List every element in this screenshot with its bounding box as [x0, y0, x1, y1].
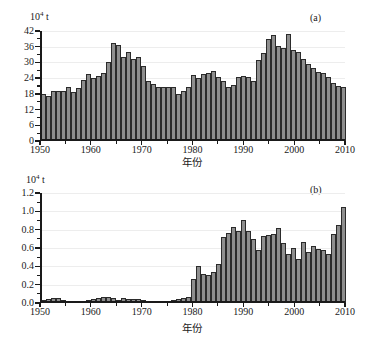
y-tick-minor — [37, 257, 40, 258]
x-axis-title-b: 年份 — [182, 323, 202, 334]
bar — [291, 248, 295, 303]
bar — [166, 87, 170, 141]
y-tick-label: 42 — [24, 26, 34, 36]
bar — [236, 77, 240, 141]
bar — [76, 88, 80, 141]
plot-area-b: 0.00.20.40.60.81.01.2 195019601970198019… — [40, 193, 345, 303]
bar — [336, 86, 340, 141]
bar — [96, 76, 100, 141]
bar — [331, 83, 335, 141]
y-tick-major — [35, 125, 40, 126]
bar — [281, 48, 285, 141]
bar — [201, 274, 205, 303]
bar — [101, 73, 105, 141]
y-tick-major — [35, 93, 40, 94]
x-tick-minor — [116, 303, 117, 306]
bar — [291, 50, 295, 141]
y-tick-major — [35, 247, 40, 248]
x-tick-label: 1950 — [30, 307, 50, 317]
bar — [136, 57, 140, 141]
y-unit-prefix-b: 10 — [26, 174, 36, 185]
x-tick-label: 2010 — [335, 145, 355, 155]
y-tick-major — [35, 211, 40, 212]
figure-root: 104 t (a) 06121824303642 195019601970198… — [0, 0, 367, 346]
bar — [196, 266, 200, 303]
x-tick-label: 2000 — [284, 307, 304, 317]
y-tick-minor — [37, 54, 40, 55]
bar — [276, 46, 280, 141]
bar — [251, 239, 255, 303]
bar — [91, 78, 95, 141]
bar — [331, 234, 335, 303]
y-tick-major — [35, 284, 40, 285]
bar — [126, 52, 130, 141]
x-axis-title-a: 年份 — [182, 157, 202, 168]
bar — [186, 87, 190, 141]
bar — [251, 81, 255, 142]
bar — [46, 96, 50, 141]
bar — [106, 62, 110, 141]
bar — [241, 220, 245, 303]
y-tick-minor — [37, 202, 40, 203]
bar — [111, 43, 115, 141]
y-tick-major — [35, 266, 40, 267]
bar — [281, 243, 285, 304]
y-tick-minor — [37, 133, 40, 134]
y-tick-major — [35, 229, 40, 230]
x-tick-label: 1950 — [30, 145, 50, 155]
bar — [241, 76, 245, 141]
y-tick-label: 18 — [24, 89, 34, 99]
bar-series-a — [40, 31, 345, 141]
y-tick-major — [35, 109, 40, 110]
bar — [151, 84, 155, 141]
bar — [206, 275, 210, 303]
y-tick-label: 0.8 — [22, 225, 35, 235]
bar — [266, 235, 270, 303]
plot-area-a: 06121824303642 1950196019701980199020002… — [40, 31, 345, 141]
bar — [286, 34, 290, 141]
bar — [201, 74, 205, 141]
bar — [141, 66, 145, 141]
bar — [71, 92, 75, 141]
x-tick-minor — [268, 303, 269, 306]
bar — [271, 35, 275, 141]
x-tick-minor — [65, 303, 66, 306]
x-tick-label: 2000 — [284, 145, 304, 155]
bar — [246, 77, 250, 141]
bar — [336, 225, 340, 303]
x-tick-minor — [167, 141, 168, 144]
bar — [191, 279, 195, 303]
bar — [256, 60, 260, 141]
bar — [61, 91, 65, 141]
bar — [211, 272, 215, 303]
x-tick-minor — [217, 303, 218, 306]
x-tick-minor — [217, 141, 218, 144]
y-tick-major — [35, 192, 40, 193]
x-tick-minor — [116, 141, 117, 144]
y-tick-label: 0.2 — [22, 280, 35, 290]
y-tick-major — [35, 77, 40, 78]
bar — [326, 254, 330, 303]
y-tick-minor — [37, 238, 40, 239]
y-tick-minor — [37, 70, 40, 71]
bar — [316, 72, 320, 141]
bar — [296, 259, 300, 303]
bar — [236, 231, 240, 303]
y-tick-minor — [37, 275, 40, 276]
y-axis-line-a — [40, 31, 42, 141]
y-unit-label-a: 104 t — [30, 12, 49, 22]
y-tick-label: 1.2 — [22, 188, 35, 198]
y-tick-major — [35, 30, 40, 31]
y-tick-label: 24 — [24, 73, 34, 83]
bar — [211, 71, 215, 141]
bar — [196, 78, 200, 141]
bar — [146, 81, 150, 141]
bar — [206, 73, 210, 141]
bar — [81, 80, 85, 141]
bar — [246, 231, 250, 303]
y-tick-label: 0.4 — [22, 261, 35, 271]
y-unit-suffix-b: t — [40, 174, 45, 185]
x-tick-minor — [319, 141, 320, 144]
bar — [116, 45, 120, 141]
bar — [261, 53, 265, 141]
